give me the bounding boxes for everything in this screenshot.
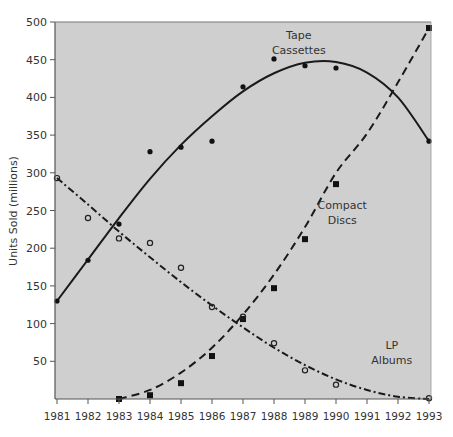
x-tick-label: 1988: [261, 410, 288, 422]
data-point: [302, 236, 308, 242]
y-tick-label: 150: [26, 280, 47, 293]
y-axis-label: Units Sold (millions): [7, 156, 20, 266]
plot-area: [55, 22, 431, 399]
units-sold-chart: TapeCassettesCompactDiscsLPAlbums 501001…: [0, 0, 453, 437]
data-point: [302, 63, 307, 68]
series-label: Cassettes: [272, 44, 326, 57]
x-tick-label: 1991: [354, 410, 381, 422]
x-tick-label: 1981: [44, 410, 71, 422]
series-label: Discs: [328, 214, 357, 227]
x-tick-label: 1993: [416, 410, 443, 422]
y-tick-label: 250: [26, 205, 47, 218]
x-tick-label: 1992: [385, 410, 412, 422]
data-point: [209, 353, 215, 359]
data-point: [209, 139, 214, 144]
y-tick-label: 50: [33, 355, 47, 368]
y-tick-label: 500: [26, 16, 47, 29]
data-point: [333, 65, 338, 70]
data-point: [178, 380, 184, 386]
series-label: LP: [385, 339, 398, 352]
x-tick-label: 1990: [323, 410, 350, 422]
data-point: [271, 285, 277, 291]
x-tick-label: 1989: [292, 410, 319, 422]
data-point: [271, 56, 276, 61]
y-tick-label: 350: [26, 129, 47, 142]
data-point: [116, 221, 121, 226]
y-tick-label: 300: [26, 167, 47, 180]
x-tick-label: 1983: [106, 410, 133, 422]
data-point: [147, 392, 153, 398]
y-tick-label: 100: [26, 318, 47, 331]
x-tick-label: 1987: [230, 410, 257, 422]
data-point: [178, 145, 183, 150]
x-tick-label: 1986: [199, 410, 226, 422]
y-tick-label: 400: [26, 91, 47, 104]
data-point: [240, 84, 245, 89]
x-tick-label: 1982: [75, 410, 102, 422]
x-tick-label: 1984: [137, 410, 164, 422]
data-point: [85, 258, 90, 263]
series-label: Compact: [318, 199, 368, 212]
data-point: [333, 181, 339, 187]
y-tick-label: 450: [26, 54, 47, 67]
data-point: [147, 149, 152, 154]
x-tick-label: 1985: [168, 410, 195, 422]
y-tick-label: 200: [26, 242, 47, 255]
series-label: Albums: [371, 354, 412, 367]
series-label: Tape: [285, 29, 312, 42]
